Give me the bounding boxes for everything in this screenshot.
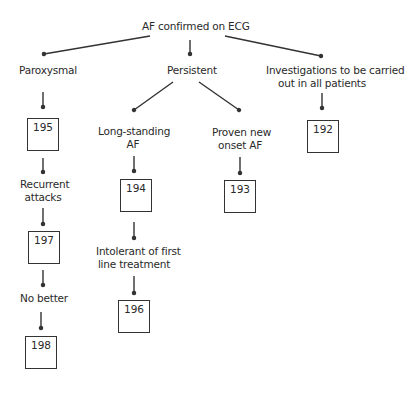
long-standing-line1: Long-standing: [98, 125, 168, 138]
recurrent-label: Recurrent attacks: [20, 178, 66, 204]
box-197-number: 197: [29, 234, 59, 246]
box-192-number: 192: [308, 123, 338, 135]
box-194: 194: [120, 179, 152, 212]
proven-new-label: Proven new onset AF: [212, 126, 268, 152]
long-standing-line2: AF: [98, 138, 168, 151]
investigations-line1: Investigations to be carried: [266, 64, 378, 77]
no-better-label: No better: [20, 292, 68, 305]
proven-new-line2: onset AF: [212, 139, 268, 152]
box-198-number: 198: [26, 339, 56, 351]
box-198: 198: [25, 336, 57, 369]
long-standing-label: Long-standing AF: [98, 125, 168, 151]
box-196-number: 196: [119, 303, 149, 315]
intolerant-line2: line treatment: [96, 258, 172, 271]
proven-new-line1: Proven new: [212, 126, 268, 139]
box-194-number: 194: [121, 182, 151, 194]
investigations-label: Investigations to be carried out in all …: [266, 64, 378, 90]
box-195-number: 195: [28, 121, 58, 133]
investigations-line2: out in all patients: [266, 77, 378, 90]
box-196: 196: [118, 300, 150, 333]
recurrent-line2: attacks: [20, 191, 66, 204]
intolerant-label: Intolerant of first line treatment: [96, 245, 172, 271]
box-192: 192: [307, 120, 339, 153]
box-195: 195: [27, 118, 59, 151]
box-193: 193: [224, 180, 256, 213]
persistent-label: Persistent: [167, 64, 217, 77]
recurrent-line1: Recurrent: [20, 178, 66, 191]
root-label: AF confirmed on ECG: [142, 20, 250, 33]
box-197: 197: [28, 231, 60, 264]
intolerant-line1: Intolerant of first: [96, 245, 172, 258]
paroxysmal-label: Paroxysmal: [19, 64, 77, 77]
box-193-number: 193: [225, 183, 255, 195]
